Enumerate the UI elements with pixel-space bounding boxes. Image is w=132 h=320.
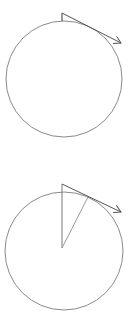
diagram-svg [0, 0, 132, 320]
top-tangent-arrow [62, 13, 121, 43]
bottom-tangent-arrow [62, 184, 121, 212]
bottom-radius-angled [62, 197, 88, 248]
top-panel [6, 13, 122, 137]
diagram-canvas [0, 0, 132, 320]
bottom-circle [5, 192, 123, 310]
bottom-panel [5, 184, 123, 310]
top-circle [6, 21, 122, 137]
